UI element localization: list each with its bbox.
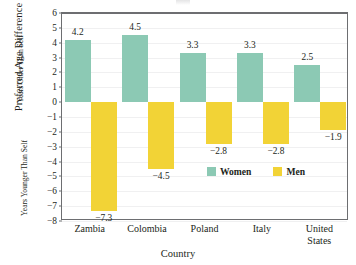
cropped-title-artifact bbox=[176, 0, 190, 5]
bar-women bbox=[294, 65, 320, 102]
bar-men bbox=[320, 102, 346, 130]
x-axis-tick-label-line: Italy bbox=[229, 223, 295, 235]
y-axis-tick-label: −6 bbox=[47, 186, 57, 196]
y-axis-tick-mark bbox=[59, 131, 62, 132]
x-axis-tick-label-line: Poland bbox=[172, 223, 238, 235]
y-axis-tick-label: 5 bbox=[52, 23, 57, 33]
y-axis-tick-label: −5 bbox=[47, 171, 57, 181]
bar-men bbox=[206, 102, 232, 144]
y-axis-tick-label: −4 bbox=[47, 157, 57, 167]
bar-value-label-men: −4.5 bbox=[141, 171, 181, 181]
x-axis-tick-label: Italy bbox=[229, 223, 295, 235]
y-axis-tick-mark bbox=[59, 191, 62, 192]
bar-value-label-men: −2.8 bbox=[256, 146, 296, 156]
y-axis-tick-mark bbox=[59, 42, 62, 43]
y-axis-tick-mark bbox=[59, 206, 62, 207]
bar-men bbox=[148, 102, 174, 169]
y-axis-tick-mark bbox=[59, 57, 62, 58]
x-axis-tick-label-line: States bbox=[286, 235, 352, 247]
y-axis-tick-mark bbox=[59, 117, 62, 118]
y-axis-lower-label: Years Younger Than Self bbox=[20, 122, 32, 234]
y-axis-tick-label: 0 bbox=[52, 97, 57, 107]
legend-label: Men bbox=[286, 166, 305, 177]
y-axis-tick-mark bbox=[59, 72, 62, 73]
y-axis-tick-label: −1 bbox=[47, 112, 57, 122]
y-axis-tick-label: 6 bbox=[52, 8, 57, 18]
y-axis-tick-mark bbox=[59, 176, 62, 177]
bar-value-label-men: −1.9 bbox=[313, 132, 353, 142]
y-axis-tick-label: −7 bbox=[47, 201, 57, 211]
gridline bbox=[62, 28, 347, 29]
y-axis-tick-label: 2 bbox=[52, 67, 57, 77]
x-axis-tick-label: UnitedStates bbox=[286, 223, 352, 246]
bar-value-label-women: 4.2 bbox=[58, 27, 98, 37]
x-axis-title: Country bbox=[0, 248, 356, 259]
x-axis-tick-label-line: Zambia bbox=[57, 223, 123, 235]
legend-entry-men: Men bbox=[273, 166, 305, 177]
y-axis-tick-mark bbox=[59, 102, 62, 103]
y-axis-tick-label: 1 bbox=[52, 82, 57, 92]
y-axis-tick-label: 4 bbox=[52, 38, 57, 48]
x-axis-tick-label-line: Colombia bbox=[114, 223, 180, 235]
bar-value-label-women: 4.5 bbox=[115, 22, 155, 32]
y-axis-tick-mark bbox=[59, 161, 62, 162]
x-axis-tick-label-line: United bbox=[286, 223, 352, 235]
y-axis-tick-label: −3 bbox=[47, 142, 57, 152]
legend: WomenMen bbox=[207, 166, 305, 177]
y-axis-tick-mark bbox=[59, 146, 62, 147]
y-axis-tick-label: 3 bbox=[52, 53, 57, 63]
legend-label: Women bbox=[220, 166, 251, 177]
y-axis-upper-label: Years Older Than Self bbox=[16, 21, 28, 117]
x-axis-tick-label: Colombia bbox=[114, 223, 180, 235]
bar-value-label-women: 2.5 bbox=[287, 52, 327, 62]
y-axis-tick-label: −8 bbox=[47, 216, 57, 226]
bar-value-label-women: 3.3 bbox=[230, 40, 270, 50]
bar-value-label-men: −7.3 bbox=[84, 213, 124, 223]
bar-women bbox=[180, 53, 206, 102]
y-axis-tick-mark bbox=[59, 221, 62, 222]
zero-baseline bbox=[62, 13, 347, 14]
bar-value-label-men: −2.8 bbox=[199, 146, 239, 156]
bar-men bbox=[263, 102, 289, 144]
bar-women bbox=[237, 53, 263, 102]
bar-men bbox=[91, 102, 117, 210]
legend-swatch-women bbox=[207, 167, 216, 176]
bar-women bbox=[65, 40, 91, 102]
y-axis-tick-label: −2 bbox=[47, 127, 57, 137]
bar-women bbox=[122, 35, 148, 102]
plot-area: 6543210−1−2−3−4−5−6−7−8 4.2−7.34.5−4.53.… bbox=[61, 12, 348, 220]
bar-value-label-women: 3.3 bbox=[173, 40, 213, 50]
x-axis-tick-label: Zambia bbox=[57, 223, 123, 235]
x-axis-tick-label: Poland bbox=[172, 223, 238, 235]
y-axis-tick-mark bbox=[59, 87, 62, 88]
legend-entry-women: Women bbox=[207, 166, 251, 177]
legend-swatch-men bbox=[273, 167, 282, 176]
